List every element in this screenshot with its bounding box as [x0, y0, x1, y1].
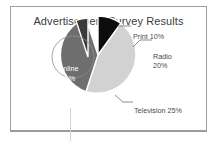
pie-label-online: Online 45% — [48, 64, 88, 83]
leader-line-television — [115, 95, 133, 102]
online-leader-extension — [70, 108, 71, 141]
pie-label-online-value: 45% — [48, 74, 88, 84]
pie-label-radio: Radio 20% — [153, 52, 172, 70]
pie-label-online-name: Online — [48, 64, 88, 74]
pie-label-radio-value: 20% — [153, 61, 172, 70]
leader-line-radio — [133, 40, 152, 47]
chart-card: Advertisement Survey Results — [10, 6, 207, 131]
pie-chart-plot-area: Print 10% Radio 20% Television 25% Onlin… — [11, 7, 208, 132]
pie-label-television: Television 25% — [134, 106, 182, 115]
screenshot-root: Advertisement Survey Results — [0, 0, 214, 141]
pie-label-print: Print 10% — [133, 32, 164, 41]
pie-label-radio-name: Radio — [153, 52, 172, 61]
